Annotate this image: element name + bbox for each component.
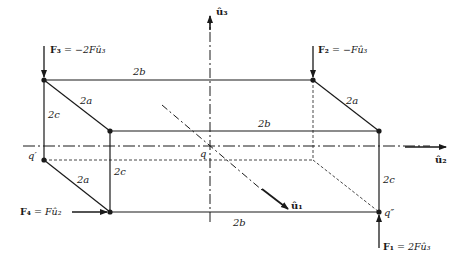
force-f3-label: F₃ = −2Fû₃ [50, 45, 105, 55]
diagram-canvas [0, 0, 461, 267]
dim-left-back-c: 2c [48, 110, 60, 120]
force-f2-label: F₂ = −Fû₃ [318, 45, 367, 55]
axis-u3-label: û₃ [216, 7, 228, 17]
dim-left-front-c: 2c [114, 167, 126, 177]
axis-u2-label: û₂ [435, 155, 447, 165]
dim-bottom-front-b: 2b [233, 218, 246, 228]
point-q-prime: q′ [28, 151, 37, 161]
axis-u1 [162, 105, 262, 190]
force-f1-label: F₁ = 2Fû₃ [383, 242, 430, 252]
point-q: q [200, 149, 206, 159]
dim-top-back-b: 2b [133, 67, 146, 77]
dim-top-front-b: 2b [258, 119, 271, 129]
dim-left-top-a: 2a [80, 96, 92, 106]
dim-left-bottom-a: 2a [77, 175, 89, 185]
dim-right-top-a: 2a [346, 96, 358, 106]
axis-u1-label: û₁ [291, 201, 303, 211]
axis-u1-arrow [262, 189, 288, 209]
force-f4-label: F₄ = Fû₂ [20, 207, 61, 217]
point-q-double-prime: q″ [384, 208, 394, 218]
box-force-diagram: û₃ û₂ û₁ F₃ = −2Fû₃ F₂ = −Fû₃ F₄ = Fû₂ F… [0, 0, 461, 267]
dim-right-front-c: 2c [383, 175, 395, 185]
